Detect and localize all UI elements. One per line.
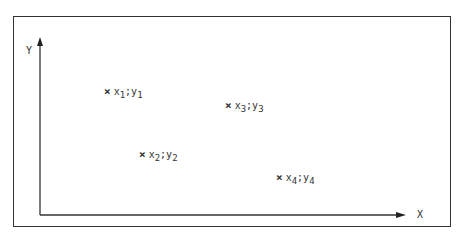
cross-marker-icon: × bbox=[225, 99, 232, 112]
point-3: ×x3;y3 bbox=[225, 99, 264, 114]
x-axis-arrow bbox=[396, 212, 406, 218]
point-2: ×x2;y2 bbox=[139, 148, 178, 163]
y-axis-arrow bbox=[37, 37, 43, 46]
point-y-index: 4 bbox=[309, 176, 314, 186]
y-axis-label: Y bbox=[26, 45, 32, 56]
point-y-index: 2 bbox=[172, 153, 177, 163]
cross-marker-icon: × bbox=[276, 171, 283, 184]
cross-marker-icon: × bbox=[104, 85, 111, 98]
axes bbox=[0, 0, 463, 239]
point-y-index: 1 bbox=[137, 90, 142, 100]
point-1: ×x1;y1 bbox=[104, 85, 143, 100]
x-axis-label: X bbox=[417, 209, 423, 220]
point-y-index: 3 bbox=[258, 104, 263, 114]
point-4: ×x4;y4 bbox=[276, 171, 315, 186]
cross-marker-icon: × bbox=[139, 148, 146, 161]
